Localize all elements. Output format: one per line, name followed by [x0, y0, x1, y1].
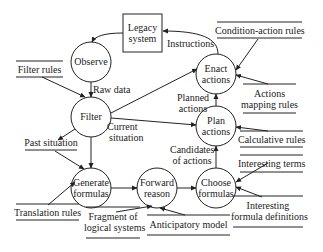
actions-mapping-rules-store: Actionsmapping rules: [241, 88, 298, 110]
legacy-to-observe-arrow: [92, 33, 123, 42]
choose-formulas-label: Chooseformulas: [196, 177, 236, 199]
anticipatory-model-store: Anticipatory model: [147, 219, 230, 230]
observe-label: Observe: [71, 56, 111, 67]
instructions-label: Instructions: [167, 38, 214, 49]
generate-formulas-label: Generateformulas: [71, 177, 111, 199]
enact-actions-label: Enactactions: [196, 63, 236, 85]
calculative-rules-store: Calculative rules: [238, 134, 305, 145]
actions-mapping-arrow: [236, 75, 268, 84]
fragment-store: Fragment oflogical systems: [84, 211, 142, 233]
interesting-formula-definitions-store: Interestingformula definitions: [231, 200, 305, 222]
current-situation-label: Current situation: [107, 121, 143, 143]
filter-rules-store: Filter rules: [16, 64, 63, 75]
raw-data-label: Raw data: [93, 84, 131, 95]
filter-label: Filter: [71, 111, 111, 122]
anticipatory-arrow: [160, 208, 185, 215]
past-to-generate-arrow: [55, 151, 84, 169]
calculative-arrow: [236, 127, 268, 131]
condition-action-arrow: [236, 39, 258, 70]
translation-rules-store: Translation rules: [14, 207, 81, 218]
past-situation-store: Past situation: [22, 137, 80, 148]
planned-actions-label: Plannedactions: [176, 92, 210, 114]
filter-rules-arrow: [42, 77, 85, 97]
candidates-of-actions-label: Candidatesof actions: [170, 144, 214, 166]
forward-reason-label: Forwardreason: [137, 177, 177, 199]
interesting-terms-store: Interesting terms: [238, 158, 305, 169]
condition-action-rules-store: Condition-action rules: [215, 25, 304, 36]
plan-actions-label: Planactions: [196, 115, 236, 137]
legacy-system-label: Legacy system: [123, 22, 162, 44]
